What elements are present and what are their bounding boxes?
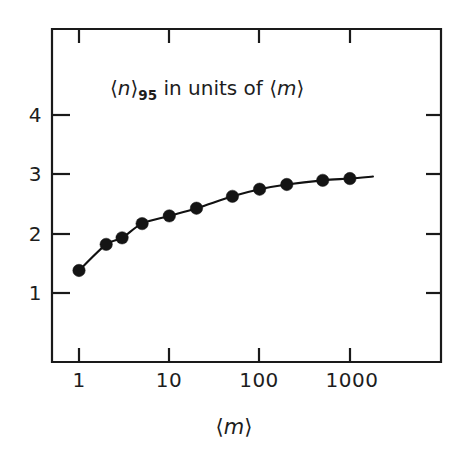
data-point bbox=[344, 172, 356, 184]
data-point bbox=[253, 183, 265, 195]
y-tick-label-2: 2 bbox=[29, 222, 42, 246]
chart-figure: 4 3 2 1 1 10 100 1000 ⟨n⟩95 in units of … bbox=[0, 0, 469, 461]
xcaption-bracket-open: ⟨ bbox=[216, 415, 224, 439]
data-point bbox=[163, 210, 175, 222]
x-axis-caption-text: ⟨m⟩ bbox=[216, 415, 253, 439]
data-point bbox=[281, 178, 293, 190]
x-tick-label-1: 1 bbox=[72, 368, 85, 392]
title-bracket-close: ⟩ bbox=[131, 76, 139, 100]
y-tick-label-1: 1 bbox=[29, 281, 42, 305]
data-point bbox=[226, 190, 238, 202]
title-subscript-95: 95 bbox=[138, 87, 157, 103]
x-tick-label-1000: 1000 bbox=[326, 368, 379, 392]
xcaption-symbol-m: m bbox=[224, 415, 244, 439]
title-middle: in units of bbox=[157, 76, 269, 100]
chart-background bbox=[0, 0, 469, 461]
title-bracket-open: ⟨ bbox=[110, 76, 118, 100]
x-tick-label-100: 100 bbox=[239, 368, 279, 392]
data-point bbox=[136, 217, 148, 229]
xcaption-bracket-close: ⟩ bbox=[244, 415, 252, 439]
title-symbol-m: m bbox=[277, 76, 296, 100]
data-point bbox=[116, 232, 128, 244]
data-point bbox=[73, 264, 85, 276]
data-point bbox=[317, 174, 329, 186]
chart-svg: 4 3 2 1 1 10 100 1000 ⟨n⟩95 in units of … bbox=[0, 0, 469, 461]
data-point bbox=[100, 238, 112, 250]
title-bracket-open-2: ⟨ bbox=[269, 76, 277, 100]
data-point bbox=[190, 202, 202, 214]
y-tick-label-4: 4 bbox=[29, 103, 42, 127]
x-axis-caption: ⟨m⟩ bbox=[216, 415, 253, 439]
y-tick-label-3: 3 bbox=[29, 162, 42, 186]
title-symbol-n: n bbox=[118, 76, 131, 100]
x-tick-label-10: 10 bbox=[156, 368, 182, 392]
title-bracket-close-2: ⟩ bbox=[297, 76, 305, 100]
